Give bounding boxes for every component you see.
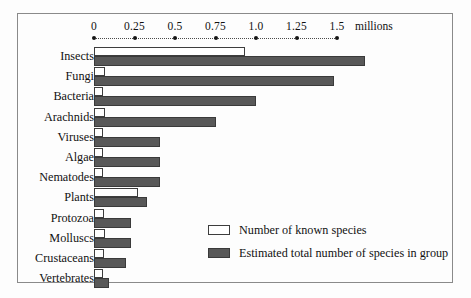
bar-estimated-total	[94, 218, 131, 228]
legend-label: Number of known species	[239, 223, 367, 238]
axis-tick-label: 0.25	[124, 20, 145, 32]
bar-estimated-total	[94, 117, 216, 127]
bar-known-species	[94, 67, 105, 76]
legend-swatch-total	[208, 248, 230, 258]
bar-estimated-total	[94, 177, 160, 187]
bar-known-species	[94, 87, 103, 96]
category-label: Arachnids	[0, 110, 94, 125]
bar-known-species	[94, 168, 103, 177]
bar-known-species	[94, 229, 105, 238]
category-label: Fungi	[0, 69, 94, 84]
category-label: Plants	[0, 190, 94, 205]
axis-tick-dot	[173, 36, 177, 40]
bar-estimated-total	[94, 238, 131, 248]
bar-known-species	[94, 47, 245, 56]
bar-estimated-total	[94, 258, 126, 268]
bar-known-species	[94, 209, 104, 218]
axis-tick-label: 1.25	[286, 20, 307, 32]
bar-estimated-total	[94, 96, 256, 106]
bar-known-species	[94, 249, 104, 258]
bar-known-species	[94, 188, 138, 197]
chart-legend: Number of known speciesEstimated total n…	[208, 220, 448, 266]
bar-estimated-total	[94, 76, 334, 86]
legend-label: Estimated total number of species in gro…	[239, 246, 448, 261]
axis-tick-dot	[295, 36, 299, 40]
bar-known-species	[94, 108, 105, 117]
category-label: Crustaceans	[0, 251, 94, 266]
bar-row: Fungi	[18, 67, 454, 87]
bar-row: Viruses	[18, 128, 454, 148]
category-label: Algae	[0, 150, 94, 165]
category-label: Insects	[0, 49, 94, 64]
legend-item: Number of known species	[208, 220, 448, 240]
bar-known-species	[94, 148, 103, 157]
axis-tick-dot	[214, 36, 218, 40]
bar-row: Bacteria	[18, 87, 454, 107]
category-label: Protozoa	[0, 211, 94, 226]
axis-tick-dot	[254, 36, 258, 40]
bar-row: Arachnids	[18, 108, 454, 128]
bar-estimated-total	[94, 197, 147, 207]
axis-tick-dot	[335, 36, 339, 40]
category-label: Nematodes	[0, 170, 94, 185]
bar-estimated-total	[94, 56, 365, 66]
legend-swatch-known	[208, 225, 230, 235]
axis-tick-dot	[133, 36, 137, 40]
category-label: Viruses	[0, 130, 94, 145]
legend-item: Estimated total number of species in gro…	[208, 243, 448, 263]
bar-row: Vertebrates	[18, 269, 454, 289]
axis-tick-label: 0.75	[205, 20, 226, 32]
axis-tick-label: 1.5	[330, 20, 345, 32]
bar-known-species	[94, 128, 103, 137]
category-label: Vertebrates	[0, 271, 94, 286]
bar-row: Nematodes	[18, 168, 454, 188]
bar-row: Algae	[18, 148, 454, 168]
category-label: Bacteria	[0, 89, 94, 104]
chart-page: 00.250.50.751.01.251.5 millions InsectsF…	[0, 0, 471, 298]
chart-frame: 00.250.50.751.01.251.5 millions InsectsF…	[17, 13, 453, 283]
bar-row: Insects	[18, 47, 454, 67]
bar-estimated-total	[94, 278, 109, 288]
bar-row: Plants	[18, 188, 454, 208]
bar-known-species	[94, 269, 103, 278]
axis-tick-dot	[92, 36, 96, 40]
axis-tick-label: 1.0	[249, 20, 264, 32]
axis-tick-label: 0.5	[168, 20, 183, 32]
bar-estimated-total	[94, 157, 160, 167]
axis-units-label: millions	[355, 20, 393, 32]
category-label: Molluscs	[0, 231, 94, 246]
axis-tick-label: 0	[91, 20, 97, 32]
bar-estimated-total	[94, 137, 160, 147]
